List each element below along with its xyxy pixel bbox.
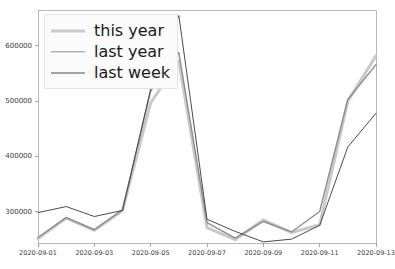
- legend-label-last-year: last year: [94, 44, 164, 60]
- x-tick-label: 2020-09-03: [75, 249, 113, 257]
- x-tick-label: 2020-09-07: [188, 249, 226, 257]
- y-tick-label: 300000: [0, 208, 32, 216]
- y-tick-label: 600000: [0, 42, 32, 50]
- legend-swatch-last-year: [51, 47, 85, 57]
- legend-item-last-week: last week: [51, 62, 170, 83]
- legend-swatch-last-week: [51, 68, 85, 78]
- legend-label-this-year: this year: [94, 23, 164, 39]
- x-tick-label: 2020-09-11: [301, 249, 339, 257]
- chart-figure: 300000400000500000600000 2020-09-012020-…: [0, 0, 395, 269]
- y-tick-label: 400000: [0, 152, 32, 160]
- chart-legend: this year last year last week: [44, 14, 178, 89]
- x-tick-label: 2020-09-09: [244, 249, 282, 257]
- legend-item-this-year: this year: [51, 20, 170, 41]
- x-tick-label: 2020-09-13: [357, 249, 395, 257]
- x-tick-label: 2020-09-05: [132, 249, 170, 257]
- x-tick-label: 2020-09-01: [19, 249, 57, 257]
- legend-swatch-this-year: [51, 26, 85, 36]
- y-tick-label: 500000: [0, 97, 32, 105]
- legend-label-last-week: last week: [94, 65, 170, 81]
- legend-item-last-year: last year: [51, 41, 170, 62]
